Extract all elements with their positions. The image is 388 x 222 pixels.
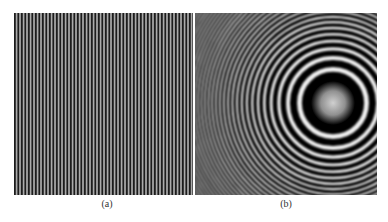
- caption-b: (b): [266, 198, 306, 209]
- linear-grating-image: [14, 13, 193, 195]
- circular-fringe-image: [195, 13, 377, 195]
- caption-a: (a): [87, 198, 127, 209]
